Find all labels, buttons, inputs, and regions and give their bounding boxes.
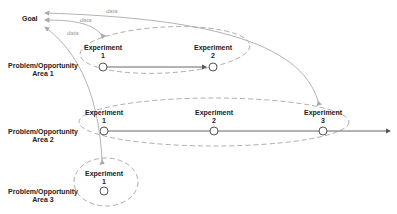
- experiment-node[interactable]: [100, 187, 108, 195]
- experiment-label: Experiment3: [304, 109, 342, 125]
- experiment-label: Experiment2: [195, 109, 233, 125]
- area-2-label: Problem/OpportunityArea 2: [0, 128, 88, 144]
- experiment-node[interactable]: [319, 127, 327, 135]
- experiment-label: Experiment1: [85, 109, 123, 125]
- data-label: data: [67, 30, 79, 36]
- experiment-label: Experiment1: [84, 44, 122, 60]
- area-3-label: Problem/OpportunityArea 3: [0, 188, 88, 204]
- diagram-canvas: [0, 0, 397, 214]
- experiment-node[interactable]: [99, 63, 107, 71]
- area-1-label: Problem/OpportunityArea 1: [0, 62, 88, 78]
- data-label: data: [80, 17, 92, 23]
- experiment-label: Experiment1: [85, 170, 123, 186]
- data-label: data: [106, 8, 118, 14]
- experiment-label: Experiment2: [194, 44, 232, 60]
- experiment-node[interactable]: [209, 63, 217, 71]
- goal-label: Goal: [22, 15, 38, 22]
- experiment-node[interactable]: [100, 127, 108, 135]
- experiment-node[interactable]: [210, 127, 218, 135]
